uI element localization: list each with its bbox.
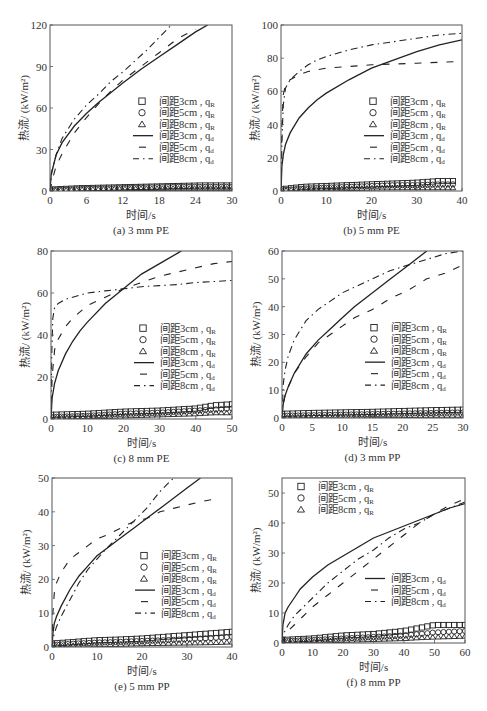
circle-legend-icon [298, 495, 304, 501]
legend-label: 间距8cm , qd [159, 152, 214, 166]
y-tick-label: 0 [42, 185, 48, 197]
y-tick-label: 0 [44, 641, 50, 653]
panel-caption: (f) 8 mm PP [346, 676, 400, 689]
y-axis-label: 热流/ (kW/m²) [17, 75, 31, 141]
panel-caption: (a) 3 mm PE [113, 224, 169, 237]
y-tick-label: 40 [38, 506, 50, 518]
triangle-marker [203, 640, 209, 645]
circle-marker [176, 637, 181, 642]
chart-panel-e: 01020304001020304050时间/s热流/ (kW/m²)(e) 5… [19, 472, 238, 693]
x-tick-label: 30 [368, 646, 380, 658]
square-marker [457, 622, 462, 627]
y-tick-label: 40 [268, 301, 280, 313]
x-tick-label: 10 [337, 421, 349, 433]
series-line-dashdot [50, 25, 171, 191]
y-axis-label: 热流/ (kW/m²) [248, 75, 262, 141]
circle-legend-icon [371, 336, 377, 342]
square-marker [430, 623, 435, 628]
square-legend-icon [141, 552, 147, 558]
square-marker [446, 622, 451, 627]
legend-label: 间距8cm , qd [391, 379, 446, 393]
circle-legend-icon [141, 564, 147, 570]
x-axis-label: 时间/s [127, 665, 156, 677]
y-axis-label: 热流/ (kW/m²) [18, 302, 32, 368]
legend-label: 间距8cm , qd [390, 152, 445, 166]
legend-item: 间距8cm , qd [364, 152, 445, 166]
x-axis-label: 时间/s [357, 209, 386, 221]
legend-label: 间距8cm , qd [161, 607, 216, 621]
x-axis-label: 时间/s [127, 437, 156, 449]
y-tick-label: 60 [267, 85, 279, 97]
y-tick-label: 30 [268, 547, 280, 559]
y-tick-label: 80 [267, 52, 279, 64]
x-tick-label: 18 [154, 194, 166, 206]
y-tick-label: 40 [268, 517, 280, 529]
x-tick-label: 30 [458, 421, 470, 433]
triangle-marker [441, 634, 447, 639]
legend-item: 间距8cm , qd [134, 379, 215, 393]
figure-grid: 06121824300306090120时间/s热流/ (kW/m²)(a) 3… [0, 0, 487, 711]
x-tick-label: 0 [278, 194, 284, 206]
y-tick-label: 20 [267, 152, 279, 164]
square-marker [441, 622, 446, 627]
y-tick-label: 80 [37, 245, 49, 257]
square-marker [435, 622, 440, 627]
triangle-legend-icon [370, 347, 377, 353]
x-tick-label: 20 [338, 646, 350, 658]
y-tick-label: 100 [262, 19, 279, 31]
x-tick-label: 20 [397, 421, 409, 433]
panel-caption: (c) 8 mm PE [114, 452, 170, 465]
square-legend-icon [371, 324, 377, 330]
y-tick-label: 0 [274, 637, 280, 649]
y-axis-label: 热流/ (kW/m²) [249, 301, 263, 367]
y-tick-label: 10 [38, 607, 50, 619]
x-tick-label: 10 [82, 422, 94, 434]
y-tick-label: 40 [267, 119, 279, 131]
triangle-marker [219, 640, 225, 645]
square-marker [219, 630, 224, 635]
triangle-marker [430, 634, 436, 639]
legend: 间距3cm , qR间距5cm , qR间距8cm , qR间距3cm , qd… [134, 322, 216, 394]
square-legend-icon [139, 98, 145, 104]
square-legend-icon [370, 98, 376, 104]
series-line-dash [282, 499, 465, 643]
x-tick-label: 40 [227, 650, 239, 662]
panel-caption: (b) 5 mm PE [343, 224, 400, 237]
y-tick-label: 0 [273, 185, 279, 197]
x-tick-label: 12 [117, 194, 128, 206]
y-tick-label: 30 [36, 144, 48, 156]
triangle-legend-icon [139, 348, 146, 354]
x-tick-label: 50 [227, 422, 239, 434]
square-legend-icon [298, 483, 304, 489]
triangle-marker [435, 634, 441, 639]
legend-item: 间距8cm , qd [365, 595, 446, 609]
y-tick-label: 20 [38, 573, 50, 585]
plot-area [279, 499, 468, 644]
legend: 间距3cm , qR间距5cm , qR间距8cm , qR间距3cm , qd… [297, 480, 446, 609]
legend: 间距3cm , qR间距5cm , qR间距8cm , qR间距3cm , qd… [135, 549, 217, 621]
square-marker [224, 630, 229, 635]
triangle-marker [457, 634, 463, 639]
circle-marker [414, 632, 419, 637]
x-axis-label: 时间/s [358, 436, 387, 448]
y-tick-label: 60 [268, 245, 280, 257]
x-tick-label: 40 [190, 422, 202, 434]
x-tick-label: 6 [84, 194, 90, 206]
x-tick-label: 30 [154, 422, 166, 434]
triangle-legend-icon [369, 121, 376, 127]
circle-legend-icon [140, 336, 146, 342]
chart-panel-c: 01020304050020406080时间/s热流/ (kW/m²)(c) 8… [18, 245, 238, 465]
square-marker [419, 625, 424, 630]
x-tick-label: 50 [429, 646, 441, 658]
x-tick-label: 10 [307, 646, 319, 658]
y-axis-label: 热流/ (kW/m²) [249, 527, 263, 593]
x-tick-label: 40 [399, 646, 411, 658]
y-tick-label: 50 [38, 472, 50, 484]
y-tick-label: 30 [268, 329, 280, 341]
y-tick-label: 20 [268, 356, 280, 368]
chart-panel-f: 010203040506001020304050时间/s热流/ (kW/m²)(… [249, 478, 471, 689]
x-tick-label: 24 [190, 194, 202, 206]
panel-caption: (d) 3 mm PP [345, 451, 401, 464]
x-tick-label: 20 [137, 650, 149, 662]
x-tick-label: 5 [309, 421, 315, 433]
